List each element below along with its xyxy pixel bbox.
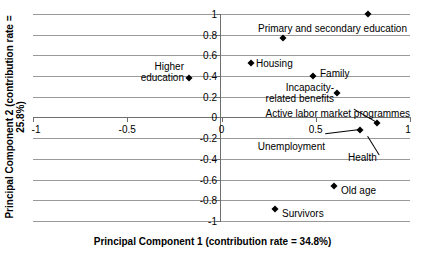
label-health: Health [348, 152, 377, 163]
label-incapacity-line1: Incapacity- [286, 82, 334, 93]
label-incapacity-related-benefits: Incapacity-related benefits [266, 82, 334, 104]
ytick-label-1: 1 [185, 9, 217, 20]
ytick-label--1: -1 [185, 216, 217, 227]
label-higher-education: Highereducation [141, 61, 184, 83]
gridline-1 [33, 14, 410, 15]
xtick-label-0.5: 0.5 [309, 124, 323, 135]
xtick-label--1: -1 [32, 124, 41, 135]
xtick-0 [222, 117, 223, 122]
ytick-label--0.6: -0.6 [185, 174, 217, 185]
y-axis-title: Principal Component 2 (contribution rate… [4, 2, 26, 232]
ytick-label-0.6: 0.6 [185, 50, 217, 61]
label-active-labor-market-programmes: Active labor market programmes [266, 108, 411, 119]
ytick-label--0.2: -0.2 [185, 133, 217, 144]
point-housing[interactable] [247, 59, 254, 66]
ytick-label-0.4: 0.4 [185, 71, 217, 82]
xtick-label-0: 0 [219, 124, 225, 135]
leader-unemployment [325, 129, 360, 134]
xtick-label-1: 1 [405, 124, 411, 135]
gridline-0.6 [33, 55, 410, 56]
ytick-label--0.8: -0.8 [185, 195, 217, 206]
ytick-label--0.4: -0.4 [185, 153, 217, 164]
ytick-label-0.8: 0.8 [185, 29, 217, 40]
point-old-age[interactable] [330, 182, 337, 189]
ytick-label-0: 0 [185, 112, 217, 123]
ytick-label-0.2: 0.2 [185, 91, 217, 102]
gridline--0.6 [33, 180, 410, 181]
gridline--0.2 [33, 138, 410, 139]
label-incapacity-line2: related benefits [266, 93, 334, 104]
point-incapacity-related-benefits[interactable] [334, 89, 341, 96]
label-family: Family [320, 68, 349, 79]
xtick-1 [410, 117, 411, 122]
point-family[interactable] [309, 72, 316, 79]
scatter-chart: 1 0.8 0.6 0.4 0.2 0 -0.2 -0.4 -0.6 -0.8 … [0, 0, 425, 257]
xtick-label--0.5: -0.5 [119, 124, 136, 135]
point-survivors[interactable] [272, 205, 279, 212]
label-survivors: Survivors [282, 208, 324, 219]
gridline-0.4 [33, 76, 410, 77]
xtick--0.5 [127, 117, 128, 122]
gridline--0.8 [33, 200, 410, 201]
point-health[interactable] [364, 10, 371, 17]
label-higher-education-line1: Higher [155, 61, 184, 72]
label-old-age: Old age [341, 185, 376, 196]
label-primary-secondary-education: Primary and secondary education [258, 23, 407, 34]
label-housing: Housing [256, 58, 293, 69]
gridline-0.2 [33, 97, 410, 98]
xtick--1 [33, 117, 34, 122]
gridline-0.8 [33, 35, 410, 36]
label-unemployment: Unemployment [258, 141, 325, 152]
x-axis-title: Principal Component 1 (contribution rate… [0, 236, 425, 247]
gridline--1 [33, 221, 410, 222]
label-higher-education-line2: education [141, 72, 184, 83]
